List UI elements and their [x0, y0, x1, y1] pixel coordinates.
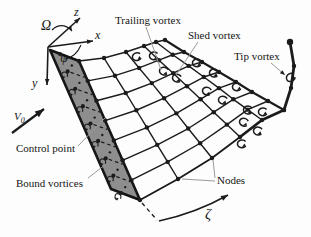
lattice-node-dot — [266, 99, 270, 103]
tip-vortex-node-dot — [282, 108, 286, 112]
lattice-node-dot — [225, 122, 229, 126]
label-trailing-vortex: Trailing vortex — [115, 14, 181, 26]
lattice-node-dot — [162, 96, 166, 100]
control-point-dot — [124, 186, 126, 188]
lattice-node-dot — [212, 110, 216, 114]
label-psi-angle: ψ — [60, 50, 69, 65]
label-x-axis: x — [94, 28, 101, 42]
lattice-node-dot — [137, 66, 141, 70]
label-bound-vortices: Bound vortices — [16, 177, 83, 189]
lattice-node-dot — [150, 81, 154, 85]
lattice-node-dot — [217, 86, 221, 90]
lattice-node-dot — [112, 138, 116, 142]
label-nodes: Nodes — [217, 174, 245, 186]
lattice-node-dot — [129, 178, 133, 182]
lattice-node-dot — [176, 177, 180, 181]
lattice-node-dot — [198, 141, 202, 145]
vortex-curl-icon — [232, 83, 240, 91]
label-z-axis: z — [73, 5, 79, 19]
lattice-node-dot — [142, 44, 146, 48]
lattice-node-dot — [124, 91, 128, 95]
control-point-dot — [101, 134, 103, 136]
vortex-curl-icon — [132, 52, 142, 61]
lattice-node-dot — [238, 135, 242, 139]
tip-vortex-node-dot — [289, 86, 293, 90]
vortex-lattice-diagram: Trailing vortex Shed vortex Tip vortex C… — [0, 0, 311, 237]
trailing-leader-line — [146, 27, 161, 70]
label-tip-vortex: Tip vortex — [234, 50, 280, 62]
lattice-node-dot — [260, 118, 264, 122]
control-point-dot — [78, 82, 80, 84]
vortex-curl-icon — [237, 140, 245, 148]
lattice-node-dot — [154, 40, 158, 44]
trailing-vortex-line — [96, 62, 202, 101]
label-omega-rotation: Ω — [41, 18, 51, 33]
lattice-node-dot — [210, 156, 214, 160]
lattice-node-dot — [163, 38, 167, 42]
y-axis-arrowhead — [45, 79, 49, 85]
lattice-node-dot — [94, 99, 98, 103]
lattice-node-dot — [185, 84, 189, 88]
lattice-node-dot — [202, 75, 206, 79]
control-point-dot — [71, 64, 73, 66]
lattice-node-dot — [186, 64, 190, 68]
label-shed-vortex: Shed vortex — [188, 29, 241, 41]
trailing-vortex-line — [88, 52, 184, 81]
lattice-node-dot — [145, 125, 149, 129]
tip-vortex-node-dot — [292, 64, 296, 68]
label-y-axis: y — [31, 76, 38, 90]
control-point-dot — [116, 169, 118, 171]
tip-vortex-node-dot — [287, 39, 293, 45]
vortex-curl-icon — [218, 95, 228, 105]
vortex-curl-icon — [201, 86, 212, 96]
trailing-vortex-line — [131, 101, 268, 180]
lattice-node-dot — [124, 50, 128, 54]
nodes_a-leader-line — [213, 160, 215, 178]
lattice-node-dot — [198, 97, 202, 101]
label-freestream-velocity: V0 — [14, 110, 25, 125]
lattice-node-dot — [77, 59, 81, 63]
lattice-node-dot — [138, 198, 142, 202]
control-point-dot — [86, 99, 88, 101]
label-zeta-axis: ζ — [205, 206, 212, 222]
vortex-curl-icon — [238, 117, 249, 127]
lattice-node-dot — [174, 111, 178, 115]
lattice-node-dot — [155, 143, 159, 147]
vortex-curl-icon — [253, 126, 263, 135]
lattice-node-dot — [245, 107, 249, 111]
figure-vortex-lattice: Trailing vortex Shed vortex Tip vortex C… — [0, 0, 311, 237]
vortex-curl-icon — [285, 72, 296, 83]
lattice-node-dot — [120, 158, 124, 162]
zeta-arrow-curve — [159, 195, 228, 221]
lattice-node-dot — [182, 50, 186, 54]
lattice-node-dot — [102, 56, 106, 60]
lattice-node-dot — [134, 108, 138, 112]
lattice-node-dot — [165, 160, 169, 164]
zeta-arrowhead — [221, 195, 228, 201]
label-control-point: Control point — [16, 142, 75, 154]
control-point-dot — [109, 151, 111, 153]
lattice-node-dot — [171, 53, 175, 57]
lattice-node-dot — [231, 97, 235, 101]
lattice-node-dot — [250, 90, 254, 94]
control-point-dot — [93, 116, 95, 118]
lattice-node-dot — [186, 126, 190, 130]
lattice-node-dot — [113, 73, 117, 77]
lattice-node-dot — [86, 79, 90, 83]
vortex-curl-icon — [258, 108, 266, 116]
zeta-dashed-line — [142, 203, 157, 220]
nodes_b-leader-line — [182, 179, 215, 181]
